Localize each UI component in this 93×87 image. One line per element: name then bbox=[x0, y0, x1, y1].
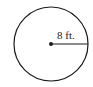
radius-label: 8 ft. bbox=[57, 29, 75, 41]
circle-diagram: 8 ft. bbox=[0, 0, 93, 87]
center-point bbox=[49, 42, 53, 46]
